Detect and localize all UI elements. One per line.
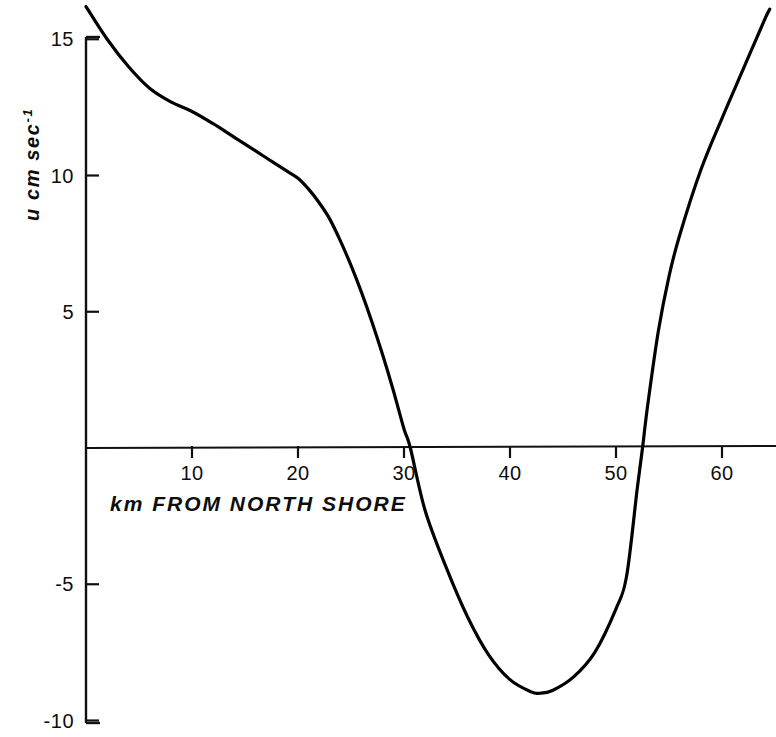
data-series-line — [86, 7, 770, 694]
y-tick-marks — [86, 39, 99, 720]
y-axis-title: u cm sec-1 — [20, 64, 45, 264]
x-tick-label: 50 — [604, 462, 627, 485]
x-axis-line — [86, 446, 776, 448]
x-tick-label: 10 — [180, 462, 203, 485]
y-tick-label: 5 — [28, 300, 74, 323]
x-tick-label: 60 — [710, 462, 733, 485]
y-tick-label: 15 — [28, 28, 74, 51]
chart-figure: 102030405060 15105-5-10 km FROM NORTH SH… — [0, 0, 776, 737]
plot-area — [0, 0, 776, 737]
x-axis-title: km FROM NORTH SHORE — [110, 492, 407, 516]
y-axis-title-text: u cm sec — [21, 123, 43, 221]
x-tick-label: 40 — [498, 462, 521, 485]
x-tick-label: 20 — [286, 462, 309, 485]
x-tick-label: 30 — [392, 462, 415, 485]
y-axis-title-exponent: -1 — [20, 108, 35, 123]
y-tick-label: -5 — [28, 573, 74, 596]
y-tick-label: -10 — [28, 709, 74, 732]
